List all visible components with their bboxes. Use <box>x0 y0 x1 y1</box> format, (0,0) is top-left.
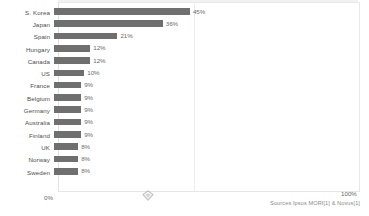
x-axis-line <box>58 191 360 192</box>
bar <box>54 70 84 77</box>
bar-row: Germany9% <box>0 104 369 116</box>
bar-value-label: 8% <box>81 143 90 151</box>
bar-value-label: 8% <box>81 155 90 163</box>
bar-track: 9% <box>54 117 369 129</box>
x-axis-tick-max: 100% <box>341 190 357 197</box>
bar-track: 36% <box>54 18 369 30</box>
category-label: Sweden <box>0 169 54 176</box>
bar-chart: S. Korea45%Japan36%Spain21%Hungary12%Can… <box>0 0 369 216</box>
category-label: France <box>0 82 54 89</box>
bar-track: 12% <box>54 43 369 55</box>
bar <box>54 33 117 40</box>
bar-value-label: 9% <box>84 106 93 114</box>
bar-value-label: 12% <box>93 57 105 65</box>
bar-row: Norway8% <box>0 154 369 166</box>
bar-value-label: 9% <box>84 118 93 126</box>
category-label: UK <box>0 144 54 151</box>
category-label: Spain <box>0 33 54 40</box>
category-label: Belgium <box>0 95 54 102</box>
bar-track: 9% <box>54 92 369 104</box>
bar <box>54 143 78 150</box>
bar-row: S. Korea45% <box>0 6 369 18</box>
category-label: S. Korea <box>0 9 54 16</box>
bar-track: 45% <box>54 6 369 18</box>
bar <box>54 168 78 175</box>
bar <box>54 45 90 52</box>
bar <box>54 82 81 89</box>
bar-value-label: 9% <box>84 94 93 102</box>
bar-value-label: 21% <box>120 32 132 40</box>
bar-row: US10% <box>0 67 369 79</box>
bar-track: 21% <box>54 31 369 43</box>
bar-value-label: 9% <box>84 81 93 89</box>
bar-track: 9% <box>54 104 369 116</box>
bar-row: France9% <box>0 80 369 92</box>
bar-track: 8% <box>54 154 369 166</box>
bar-row: Japan36% <box>0 18 369 30</box>
bar-row: Sweden8% <box>0 166 369 178</box>
category-label: Japan <box>0 21 54 28</box>
bar-row: UK8% <box>0 141 369 153</box>
category-label: Hungary <box>0 46 54 53</box>
category-label: Australia <box>0 119 54 126</box>
bar-track: 9% <box>54 129 369 141</box>
bar <box>54 106 81 113</box>
bar <box>54 131 81 138</box>
diamond-marker-icon <box>142 190 154 201</box>
bar-value-label: 36% <box>166 20 178 28</box>
category-label: Norway <box>0 156 54 163</box>
bar-row: Canada12% <box>0 55 369 67</box>
bar-track: 12% <box>54 55 369 67</box>
bar-row: Hungary12% <box>0 43 369 55</box>
bar-value-label: 12% <box>93 44 105 52</box>
bar-value-label: 45% <box>193 8 205 16</box>
bar <box>54 20 163 27</box>
bar <box>54 8 190 15</box>
x-axis-tick-min: 0% <box>44 194 53 201</box>
bar-value-label: 10% <box>87 69 99 77</box>
bar-rows: S. Korea45%Japan36%Spain21%Hungary12%Can… <box>0 6 369 178</box>
bar-row: Finland9% <box>0 129 369 141</box>
bar-row: Australia9% <box>0 117 369 129</box>
category-label: US <box>0 70 54 77</box>
bar-track: 8% <box>54 166 369 178</box>
source-note: Sources Ipsos MORI[1] & Novus[1] <box>270 200 360 206</box>
bar-row: Belgium9% <box>0 92 369 104</box>
bar-value-label: 8% <box>81 167 90 175</box>
bar-track: 10% <box>54 67 369 79</box>
bar <box>54 119 81 126</box>
bar-row: Spain21% <box>0 31 369 43</box>
bar-track: 9% <box>54 80 369 92</box>
bar-track: 8% <box>54 141 369 153</box>
bar <box>54 57 90 64</box>
category-label: Canada <box>0 58 54 65</box>
bar <box>54 156 78 163</box>
category-label: Finland <box>0 132 54 139</box>
bar-value-label: 9% <box>84 131 93 139</box>
bar <box>54 94 81 101</box>
category-label: Germany <box>0 107 54 114</box>
